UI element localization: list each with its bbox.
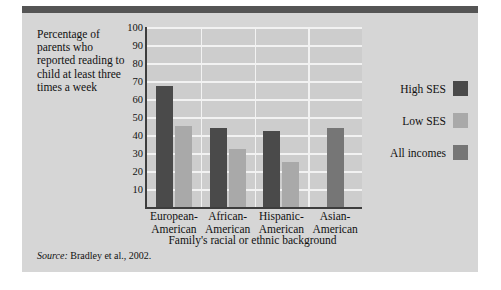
x-axis-tick-label: Asian-American bbox=[312, 210, 357, 235]
source-label: Source: bbox=[37, 250, 68, 261]
legend-item-label: All incomes bbox=[390, 147, 446, 159]
bar-high-ses-african-american bbox=[210, 128, 227, 207]
source-note: Source: Bradley et al., 2002. bbox=[37, 250, 151, 261]
legend-item: Low SES bbox=[372, 108, 468, 133]
legend-color-swatch bbox=[453, 145, 468, 160]
y-axis-tick-label: 30 bbox=[133, 148, 144, 159]
x-axis-title: Family's racial or ethnic background bbox=[145, 234, 360, 246]
y-axis-tick-label: 50 bbox=[133, 112, 144, 123]
legend-item-label: High SES bbox=[400, 83, 446, 95]
source-citation: Bradley et al., 2002. bbox=[68, 250, 152, 261]
bar-high-ses-hispanic-american bbox=[263, 131, 280, 207]
group-separator bbox=[201, 27, 203, 207]
bar-high-ses-european-american bbox=[156, 86, 173, 207]
y-axis-tick-label: 40 bbox=[133, 130, 144, 141]
x-axis-tick-label: Hispanic-American bbox=[259, 210, 304, 235]
y-axis-tick-label: 20 bbox=[133, 166, 144, 177]
y-axis-tick-label: 100 bbox=[127, 22, 143, 33]
legend-item: High SES bbox=[372, 76, 468, 101]
y-axis-tick-label: 90 bbox=[133, 40, 144, 51]
y-axis-tick-label: 10 bbox=[133, 184, 144, 195]
y-axis-tick-label: 60 bbox=[133, 94, 144, 105]
chart-legend: High SESLow SESAll incomes bbox=[372, 76, 468, 172]
y-axis-tick-label: 70 bbox=[133, 76, 144, 87]
legend-color-swatch bbox=[453, 113, 468, 128]
legend-color-swatch bbox=[453, 81, 468, 96]
legend-item-label: Low SES bbox=[402, 115, 446, 127]
y-axis-tick-label: 80 bbox=[133, 58, 144, 69]
x-axis-tick-label: African-American bbox=[205, 210, 250, 235]
legend-item: All incomes bbox=[372, 140, 468, 165]
group-separator bbox=[255, 27, 257, 207]
plot-area: 102030405060708090100European-AmericanAf… bbox=[145, 27, 362, 209]
bar-low-ses-hispanic-american bbox=[282, 162, 299, 207]
x-axis-tick-label: European-American bbox=[150, 210, 198, 235]
bar-low-ses-european-american bbox=[175, 126, 192, 207]
y-axis-caption: Percentage of parents who reported readi… bbox=[37, 28, 127, 94]
top-rule-divider bbox=[22, 6, 478, 13]
figure-panel: Percentage of parents who reported readi… bbox=[22, 6, 478, 272]
bar-all-incomes-asian-american bbox=[327, 128, 344, 207]
group-separator bbox=[308, 27, 310, 207]
bar-low-ses-african-american bbox=[229, 149, 246, 207]
